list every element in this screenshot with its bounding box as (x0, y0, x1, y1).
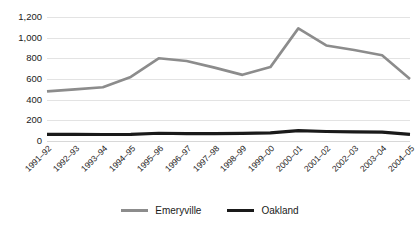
legend-label: Emeryville (155, 205, 201, 216)
legend-swatch-icon (121, 209, 148, 212)
line-chart: 02004006008001,0001,200 1991–921992–9319… (0, 0, 420, 229)
y-tick-label: 600 (0, 74, 42, 84)
legend-swatch-icon (227, 209, 254, 213)
legend-label: Oakland (261, 205, 298, 216)
y-tick-label: 1,000 (0, 33, 42, 43)
chart-legend: EmeryvilleOakland (0, 205, 420, 216)
y-tick-label: 1,200 (0, 12, 42, 22)
x-axis: 1991–921992–931993–941994–951995–961996–… (47, 142, 410, 200)
series-lines (47, 17, 410, 141)
y-tick-label: 800 (0, 53, 42, 63)
series-line-oakland (47, 131, 410, 135)
y-tick-label: 400 (0, 95, 42, 105)
legend-item-oakland[interactable]: Oakland (227, 205, 298, 216)
legend-item-emeryville[interactable]: Emeryville (121, 205, 201, 216)
plot-area (47, 17, 410, 141)
y-tick-label: 0 (0, 136, 42, 146)
y-tick-label: 200 (0, 115, 42, 125)
series-line-emeryville (47, 28, 410, 91)
